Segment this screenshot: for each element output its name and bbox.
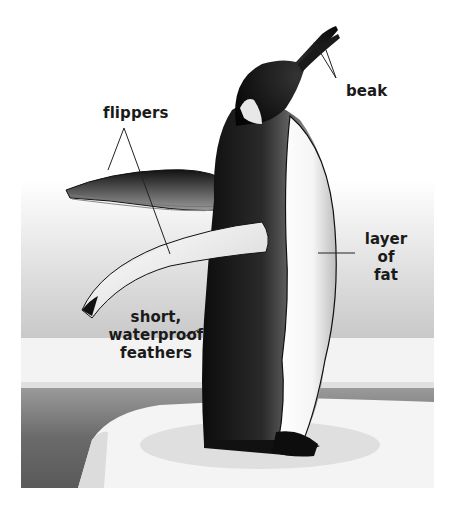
feathers-label-line1: short, — [96, 308, 216, 326]
beak-label-text: beak — [346, 82, 387, 100]
feathers-label-line2: waterproof — [96, 326, 216, 344]
fat-label-line2: of — [362, 248, 410, 266]
penguin-body — [202, 98, 336, 457]
flippers-label: flippers — [103, 104, 169, 122]
feathers-label-line3: feathers — [96, 344, 216, 362]
layer-of-fat-label: layer of fat — [362, 230, 410, 284]
fat-label-line1: layer — [362, 230, 410, 248]
penguin-head — [235, 26, 340, 126]
fat-label-line3: fat — [362, 266, 410, 284]
beak-label: beak — [346, 82, 387, 100]
flippers-label-text: flippers — [103, 104, 169, 122]
feathers-label: short, waterproof feathers — [96, 308, 216, 362]
